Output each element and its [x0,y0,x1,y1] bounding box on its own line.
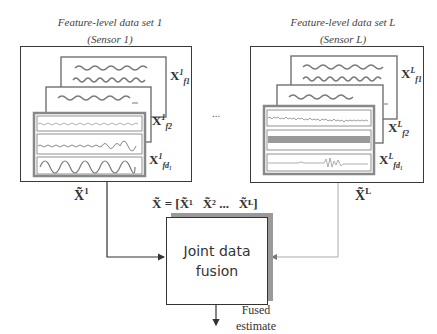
label-base: X [379,152,388,167]
label-sup: L [410,66,415,75]
label-sup: 1 [161,113,165,122]
fusion-label: Joint data fusion [184,241,251,281]
output-line1: Fused [226,302,286,318]
right-label-f1: XLf1 [401,66,422,84]
fusion-line1: Joint data [184,241,251,261]
right-card-fd1 [264,106,374,174]
symbol-sup: 1 [84,186,89,196]
right-output-symbol: X̃L [355,186,371,204]
right-label-f2: XLf2 [388,120,409,138]
symbol-base: X̃ [74,188,84,203]
label-sup: 1 [179,68,183,77]
fusion-line2: fusion [184,261,251,281]
left-label-fd1: X1fd₁ [149,152,172,170]
concat-equation: X̃ = [X̃¹ X̃² ... X̃ᴸ] [152,196,258,212]
fused-estimate-label: Fused estimate [226,302,286,334]
left-label-f2: X1f2 [152,113,172,131]
label-base: X [149,152,158,167]
label-sub: f2 [165,122,172,131]
right-label-fd1: XLfd₁ [379,152,403,170]
label-sup: 1 [158,152,162,161]
label-base: X [401,66,410,81]
label-base: X [152,113,161,128]
label-sup: L [388,152,393,161]
label-base: X [170,68,179,83]
output-line2: estimate [226,318,286,334]
label-base: X [388,120,397,135]
label-sub: f2 [402,129,409,138]
label-sub: fd₁ [162,161,171,170]
left-output-symbol: X̃1 [74,186,89,204]
left-label-f1: X1f1 [170,68,190,86]
joint-data-fusion-box: Joint data fusion [166,217,268,305]
left-card-fd1 [34,113,145,176]
label-sub: f1 [183,77,190,86]
label-sub: fd₁ [393,161,402,170]
ellipsis: ... [212,107,220,119]
symbol-sup: L [365,186,371,196]
label-sup: L [397,120,402,129]
symbol-base: X̃ [355,188,365,203]
label-sub: f1 [415,75,422,84]
